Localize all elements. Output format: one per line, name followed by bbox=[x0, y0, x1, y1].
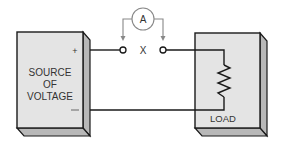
source-label-line-2: OF bbox=[43, 79, 57, 90]
terminal-right bbox=[160, 47, 166, 53]
ammeter-symbol: A bbox=[140, 14, 147, 25]
gap-label: X bbox=[140, 45, 147, 56]
source-label-line-1: SOURCE bbox=[29, 67, 72, 78]
terminal-left bbox=[120, 47, 126, 53]
circuit-diagram: SOURCE OF VOLTAGE + LOAD X A bbox=[0, 0, 284, 151]
voltage-source-box: SOURCE OF VOLTAGE + bbox=[17, 32, 90, 136]
positive-terminal-label: + bbox=[72, 46, 77, 56]
load-label: LOAD bbox=[210, 113, 236, 124]
load-box: LOAD bbox=[195, 33, 267, 136]
source-label-line-3: VOLTAGE bbox=[27, 91, 73, 102]
